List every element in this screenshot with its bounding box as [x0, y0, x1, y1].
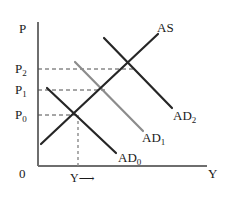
curve-as-base: AS	[157, 20, 174, 35]
curve-label-ad2: AD2	[173, 109, 196, 122]
curve-label-ad1: AD1	[142, 131, 165, 144]
tick-label-p2: P2	[15, 62, 27, 75]
y-axis-label: P	[19, 22, 26, 35]
curve-ad2-base: AD	[173, 108, 192, 123]
curve-ad2-sub: 2	[192, 115, 197, 125]
diagram-canvas	[0, 0, 229, 203]
x-axis-inner-text: Y	[70, 171, 79, 185]
x-axis-label: Y	[208, 167, 217, 180]
tick-label-p1: P1	[15, 83, 27, 96]
origin-label: 0	[19, 167, 26, 180]
curve-ad1-sub: 1	[161, 137, 166, 147]
x-axis-inner-label: Y⟶	[70, 172, 94, 184]
curve-ad1-base: AD	[142, 130, 161, 145]
curve-label-as: AS	[157, 21, 174, 34]
right-arrow-icon: ⟶	[79, 172, 95, 184]
tick-p1-sub: 1	[22, 89, 27, 99]
curve-ad0	[47, 88, 116, 153]
curve-ad0-base: AD	[118, 150, 137, 165]
curve-ad1	[75, 62, 143, 131]
tick-label-p0: P0	[15, 108, 27, 121]
curve-label-ad0: AD0	[118, 151, 141, 164]
tick-p0-sub: 0	[22, 114, 27, 124]
curve-ad0-sub: 0	[137, 157, 142, 167]
tick-p2-sub: 2	[22, 68, 27, 78]
curve-ad2	[104, 38, 172, 108]
ad-as-diagram: P P2 P1 P0 AS AD2 AD1 AD0 0 Y⟶ Y	[0, 0, 229, 203]
